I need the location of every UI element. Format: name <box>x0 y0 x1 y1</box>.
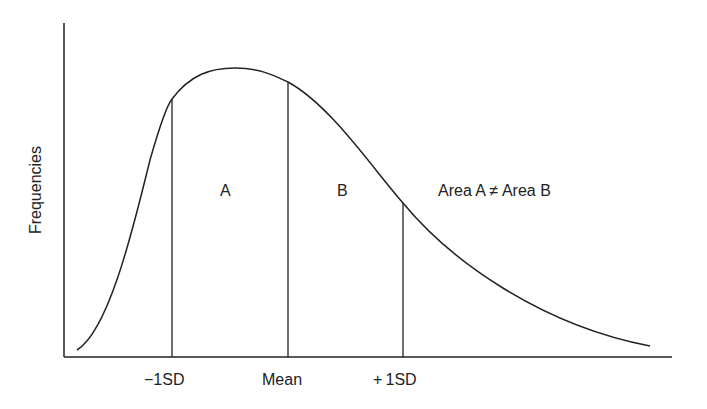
region-b-label: B <box>337 182 348 200</box>
area-annotation: Area A ≠ Area B <box>438 182 551 200</box>
skewed-distribution-diagram <box>0 0 707 409</box>
distribution-curve <box>77 68 650 350</box>
tick-plus-1sd: + 1SD <box>373 371 417 389</box>
y-axis-label: Frequencies <box>27 146 45 234</box>
tick-mean: Mean <box>262 371 302 389</box>
tick-minus-1sd: −1SD <box>144 371 184 389</box>
region-a-label: A <box>220 182 231 200</box>
